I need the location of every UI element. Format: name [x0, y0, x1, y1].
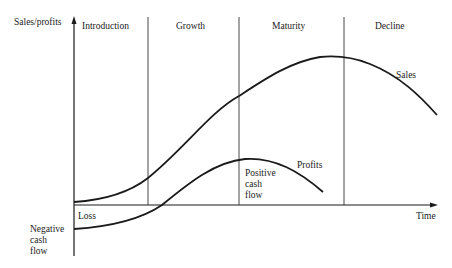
x-axis-arrow-icon — [430, 203, 438, 208]
profits-curve-label: Profits — [297, 160, 322, 171]
diagram-canvas — [0, 0, 452, 268]
x-axis-label: Time — [416, 211, 436, 222]
profits-curve — [74, 159, 323, 229]
stage-label-growth: Growth — [176, 21, 205, 32]
y-axis-label: Sales/profits — [14, 17, 62, 28]
stage-label-decline: Decline — [375, 21, 405, 32]
stage-label-maturity: Maturity — [272, 21, 305, 32]
loss-label: Loss — [78, 211, 96, 222]
negative-cash-flow-label: Negative cash flow — [30, 224, 64, 257]
product-life-cycle-diagram: Sales/profits Time Introduction Growth M… — [0, 0, 452, 268]
y-axis-arrow-icon — [72, 16, 77, 24]
stage-label-introduction: Introduction — [82, 21, 129, 32]
positive-cash-flow-label: Positive cash flow — [245, 168, 276, 201]
sales-curve-label: Sales — [396, 70, 416, 81]
